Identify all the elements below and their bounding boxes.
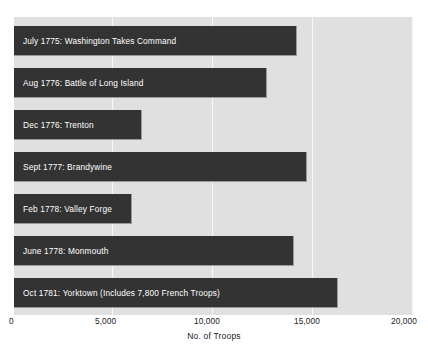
bar-label: July 1775: Washington Takes Command — [23, 26, 176, 56]
gridline-15000 — [312, 17, 313, 315]
x-axis: 0 5,000 10,000 15,000 20,000 — [0, 316, 428, 332]
bar-label: Aug 1776: Battle of Long Island — [23, 68, 143, 98]
gridline-20000 — [412, 17, 413, 315]
bar-label: Sept 1777: Brandywine — [23, 152, 112, 182]
bar-label: June 1778: Monmouth — [23, 236, 108, 266]
x-axis-title: No. of Troops — [0, 331, 428, 341]
x-tick-label: 5,000 — [95, 316, 116, 326]
x-tick-label: 0 — [9, 316, 14, 326]
x-tick-label: 15,000 — [294, 316, 320, 326]
bar-label: Oct 1781: Yorktown (Includes 7,800 Frenc… — [23, 278, 220, 308]
plot-area: July 1775: Washington Takes Command Aug … — [14, 17, 413, 315]
x-tick-label: 10,000 — [194, 316, 220, 326]
bar-label: Feb 1778: Valley Forge — [23, 194, 112, 224]
bar-chart: July 1775: Washington Takes Command Aug … — [0, 0, 428, 357]
x-tick-label: 20,000 — [391, 316, 417, 326]
bar-label: Dec 1776: Trenton — [23, 110, 94, 140]
